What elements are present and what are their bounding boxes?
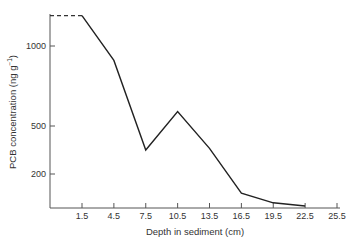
x-tick-label: 10.5 (169, 211, 187, 221)
x-tick-label: 25.5 (328, 211, 346, 221)
y-tick-label: 1000 (26, 41, 46, 51)
y-tick-label: 200 (31, 169, 46, 179)
x-tick-label: 13.5 (201, 211, 219, 221)
x-tick-label: 19.5 (264, 211, 282, 221)
x-tick-label: 16.5 (233, 211, 251, 221)
x-tick-label: 4.5 (108, 211, 121, 221)
x-tick-label: 22.5 (296, 211, 314, 221)
x-tick-label: 7.5 (139, 211, 152, 221)
pcb-line (82, 16, 305, 206)
chart: 1.54.57.510.513.516.519.522.525.5 100050… (0, 0, 351, 246)
x-tick-label: 1.5 (76, 211, 89, 221)
y-tick-label: 500 (31, 121, 46, 131)
y-ticks: 1000500200 (26, 41, 55, 179)
x-axis-title: Depth in sediment (cm) (146, 226, 244, 237)
y-axis-title: PCB concentration (ng g−1) (6, 55, 18, 169)
x-ticks: 1.54.57.510.513.516.519.522.525.5 (76, 203, 346, 221)
